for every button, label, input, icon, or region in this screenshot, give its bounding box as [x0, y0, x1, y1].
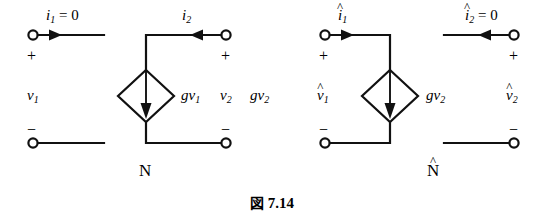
left-port-voltage-label: v1 [27, 88, 39, 105]
left-circuit-i1-arrowhead-icon [49, 30, 62, 41]
left-circuit-i1-label: i1 = 0 [46, 8, 79, 25]
figure-caption-prefix: 図 [250, 195, 264, 211]
left-port-plus-sign: + [27, 48, 36, 64]
right-circuit-right-port-voltage-label: ^v2 [506, 88, 518, 105]
right-circuit-bottom-right-terminal [509, 138, 518, 147]
left-circuit-right-port-plus-sign: + [221, 48, 230, 64]
right-circuit-left-port-plus-sign: + [319, 48, 328, 64]
left-circuit-extra-gv2-label: gv2 [250, 88, 269, 105]
left-circuit-bottom-left-terminal [28, 138, 37, 147]
left-circuit-right-port-minus-sign: − [221, 122, 230, 138]
left-network-name: N [139, 162, 151, 179]
right-network-name: ^N [427, 162, 439, 179]
right-circuit-top-left-wire [330, 35, 390, 70]
right-circuit-bottom-left-wire [330, 122, 390, 143]
left-circuit-bottom-right-wire [146, 122, 221, 143]
left-circuit-top-right-terminal [221, 30, 230, 39]
left-circuit-top-right-wire [146, 35, 221, 70]
right-circuit-top-left-terminal [320, 30, 329, 39]
left-circuit-source-label: gv1 [181, 88, 200, 105]
right-circuit-i1-arrowhead-icon [341, 30, 354, 41]
right-circuit-i2-arrowhead-icon [478, 30, 491, 41]
left-circuit-i2-arrowhead-icon [190, 30, 203, 41]
right-circuit-i1-label: ^i1 [338, 8, 347, 25]
left-circuit-top-left-terminal [28, 30, 37, 39]
right-circuit-bottom-left-terminal [320, 138, 329, 147]
circuit-schematic-canvas [0, 0, 544, 219]
left-circuit-right-port-voltage-label: v2 [220, 88, 232, 105]
left-circuit-bottom-right-terminal [221, 138, 230, 147]
right-circuit-left-port-minus-sign: − [319, 122, 328, 138]
right-circuit-top-right-terminal [509, 30, 518, 39]
left-circuit-i2-label: i2 [182, 8, 191, 25]
right-circuit-right-port-plus-sign: + [509, 48, 518, 64]
figure-caption: 図 7.14 [0, 196, 544, 211]
left-port-minus-sign: − [27, 122, 36, 138]
figure-7-14: i1 = 0 i2 + v1 − + v2 − gv1 gv2 N ^i1 ^i… [0, 0, 544, 219]
right-circuit-i2-label: ^i2 = 0 [465, 8, 498, 25]
right-circuit-right-port-minus-sign: − [509, 122, 518, 138]
figure-caption-number: 7.14 [268, 195, 294, 211]
right-circuit-left-port-voltage-label: ^v1 [317, 88, 329, 105]
right-circuit-source-label: gv2 [426, 88, 445, 105]
